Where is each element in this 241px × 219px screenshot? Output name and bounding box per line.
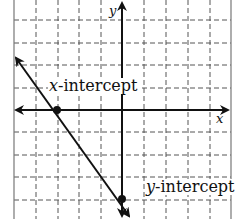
x-axis-label: x: [216, 112, 223, 125]
y-intercept-label: y-intercept: [145, 179, 236, 195]
x-intercept-text: -intercept: [58, 76, 137, 95]
y-intercept-text: -intercept: [155, 177, 234, 196]
x-intercept-label: x-intercept: [48, 78, 139, 94]
y-intercept-point: [118, 195, 126, 203]
y-axis-label: y: [109, 4, 116, 17]
y-intercept-var: y: [146, 177, 155, 196]
x-intercept-point: [53, 106, 61, 114]
x-intercept-var: x: [49, 76, 58, 95]
